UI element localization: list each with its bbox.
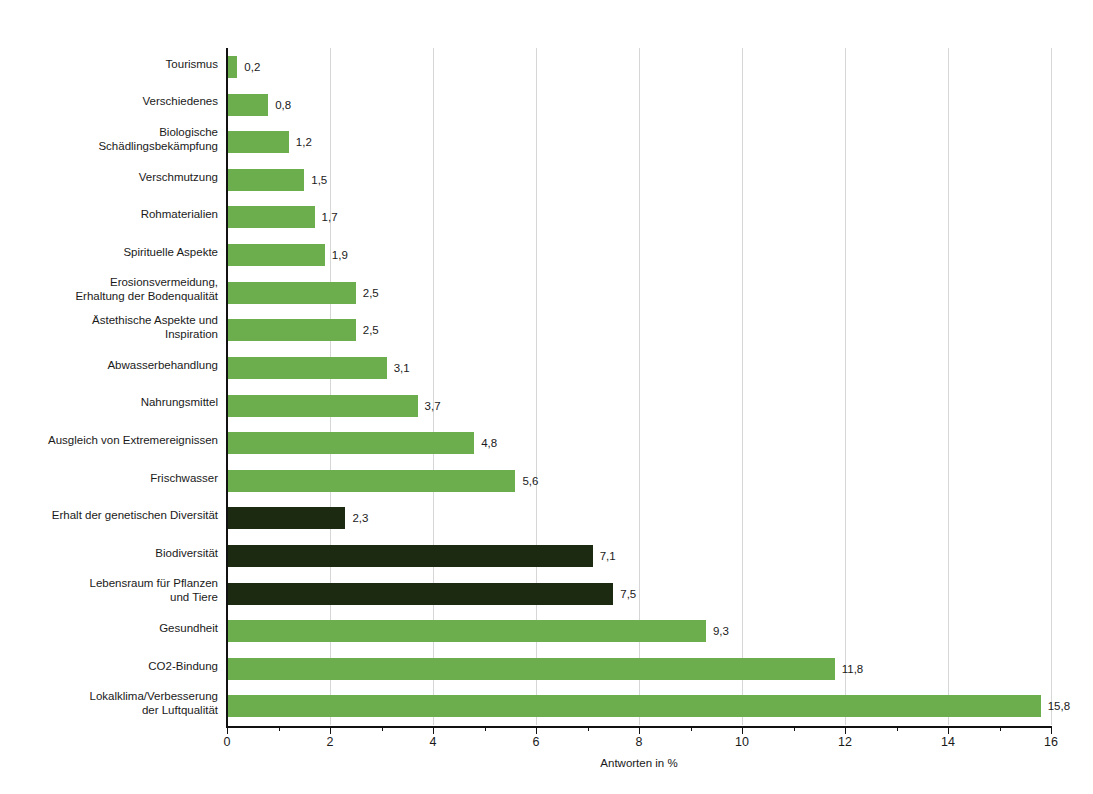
bar-green[interactable] [227,658,835,680]
x-tick-minor-13 [897,728,898,731]
x-tick-label: 0 [224,735,231,749]
bar-green[interactable] [227,470,515,492]
x-tick-label: 16 [1044,735,1058,749]
bar-value-label: 3,1 [387,357,410,379]
category-label: Lebensraum für Pflanzen und Tiere [0,576,218,604]
bar-row: 7,1 [227,537,1051,575]
x-axis-ticks: 0246810121416 [227,728,1051,758]
x-axis-title: Antworten in % [227,757,1051,769]
bar-row: 1,2 [227,123,1051,161]
bar-row: 15,8 [227,687,1051,725]
x-tick-minor-5 [485,728,486,731]
bar-row: 9,3 [227,612,1051,650]
x-tick-major-4 [433,728,434,734]
bar-row: 3,1 [227,349,1051,387]
x-tick-major-16 [1051,728,1052,734]
x-tick-label: 4 [430,735,437,749]
x-tick-minor-1 [279,728,280,731]
bar-value-label: 4,8 [474,432,497,454]
bar-row: 2,5 [227,311,1051,349]
bar-value-label: 2,3 [345,507,368,529]
bar-green[interactable] [227,319,356,341]
x-tick-major-12 [845,728,846,734]
bar-green[interactable] [227,282,356,304]
category-label: Verschiedenes [0,94,218,108]
x-tick-minor-3 [382,728,383,731]
bar-green[interactable] [227,357,387,379]
x-tick-major-0 [227,728,228,734]
bar-dark[interactable] [227,507,345,529]
category-label: Gesundheit [0,621,218,635]
bar-value-label: 11,8 [835,658,864,680]
x-tick-major-6 [536,728,537,734]
bar-dark[interactable] [227,583,613,605]
bar-row: 1,9 [227,236,1051,274]
x-tick-label: 14 [941,735,955,749]
bar-row: 3,7 [227,387,1051,425]
bar-row: 2,5 [227,274,1051,312]
bar-row: 1,5 [227,161,1051,199]
x-tick-minor-15 [1000,728,1001,731]
bar-green[interactable] [227,206,315,228]
bar-value-label: 7,5 [613,583,636,605]
category-label: Lokalklima/Verbesserung der Luftqualität [0,689,218,717]
category-label: CO2-Bindung [0,659,218,673]
bar-value-label: 15,8 [1041,695,1070,717]
bar-value-label: 2,5 [356,319,379,341]
category-label: Ästethische Aspekte und Inspiration [0,313,218,341]
bar-value-label: 1,2 [289,131,312,153]
x-tick-major-10 [742,728,743,734]
bar-row: 0,2 [227,48,1051,86]
x-tick-minor-7 [588,728,589,731]
gridline-16 [1051,48,1052,725]
category-label: Frischwasser [0,471,218,485]
x-tick-major-2 [330,728,331,734]
bar-value-label: 0,2 [237,56,260,78]
bar-green[interactable] [227,131,289,153]
category-label: Erosionsvermeidung, Erhaltung der Bodenq… [0,275,218,303]
bar-green[interactable] [227,695,1041,717]
category-label: Biologische Schädlingsbekämpfung [0,125,218,153]
bar-row: 0,8 [227,86,1051,124]
bar-chart: 0,20,81,21,51,71,92,52,53,13,74,85,62,37… [0,0,1093,794]
x-tick-minor-11 [794,728,795,731]
bar-value-label: 1,9 [325,244,348,266]
x-tick-label: 6 [533,735,540,749]
bar-green[interactable] [227,56,237,78]
bar-value-label: 7,1 [593,545,616,567]
x-tick-label: 10 [735,735,749,749]
x-tick-minor-9 [691,728,692,731]
y-axis-line [226,48,228,727]
bar-green[interactable] [227,94,268,116]
bar-value-label: 9,3 [706,620,729,642]
bar-row: 4,8 [227,424,1051,462]
category-label: Verschmutzung [0,170,218,184]
bar-row: 11,8 [227,650,1051,688]
bar-row: 1,7 [227,198,1051,236]
category-label: Rohmaterialien [0,207,218,221]
category-label: Nahrungsmittel [0,395,218,409]
x-tick-label: 2 [327,735,334,749]
bar-row: 7,5 [227,575,1051,613]
plot-area: 0,20,81,21,51,71,92,52,53,13,74,85,62,37… [227,48,1051,725]
bar-green[interactable] [227,620,706,642]
category-label: Abwasserbehandlung [0,358,218,372]
bar-value-label: 1,5 [304,169,327,191]
bar-green[interactable] [227,244,325,266]
bar-dark[interactable] [227,545,593,567]
category-label: Biodiversität [0,546,218,560]
category-label: Ausgleich von Extremereignissen [0,433,218,447]
bar-green[interactable] [227,395,418,417]
bar-row: 5,6 [227,462,1051,500]
bar-green[interactable] [227,169,304,191]
bar-green[interactable] [227,432,474,454]
x-tick-major-14 [948,728,949,734]
bar-value-label: 2,5 [356,282,379,304]
bar-value-label: 5,6 [515,470,538,492]
bar-value-label: 0,8 [268,94,291,116]
bar-value-label: 1,7 [315,206,338,228]
x-tick-label: 8 [636,735,643,749]
bars-layer: 0,20,81,21,51,71,92,52,53,13,74,85,62,37… [227,48,1051,725]
x-tick-label: 12 [838,735,852,749]
x-tick-major-8 [639,728,640,734]
